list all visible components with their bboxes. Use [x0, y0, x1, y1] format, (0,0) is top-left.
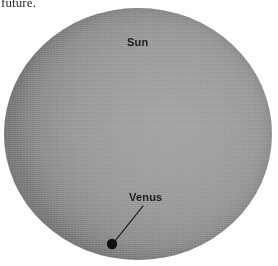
venus-label: Venus [129, 191, 162, 203]
sun-label: Sun [127, 36, 148, 48]
clipped-caption-text: future. [1, 0, 36, 10]
figure-root: future. Sun Venus [0, 0, 278, 266]
